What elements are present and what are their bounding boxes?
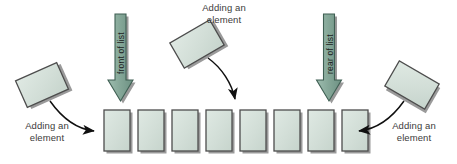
list-item (342, 110, 371, 154)
caption-adding-element-left: Adding an element (4, 120, 90, 143)
list-item (206, 110, 235, 154)
list-insertion-diagram: front of list rear of list (0, 0, 457, 164)
list-item (308, 110, 337, 154)
caption-adding-element-right: Adding an element (372, 120, 456, 143)
middle-insert-arrow (208, 58, 235, 99)
list-item (104, 110, 133, 154)
front-of-list-label: front of list (116, 32, 126, 74)
rear-of-list-label: rear of list (325, 34, 335, 74)
list-item (240, 110, 269, 154)
middle-element (170, 18, 228, 70)
rear-of-list-pointer: rear of list (317, 14, 345, 104)
front-of-list-pointer: front of list (108, 14, 136, 104)
right-element (383, 61, 441, 113)
left-element (16, 61, 73, 110)
list-item (172, 110, 201, 154)
list-item (138, 110, 167, 154)
list-of-elements (104, 110, 371, 154)
caption-adding-element-middle: Adding an element (182, 2, 266, 25)
list-item (274, 110, 303, 154)
